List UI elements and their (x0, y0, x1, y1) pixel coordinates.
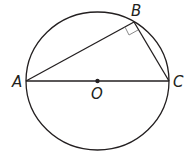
label-a: A (11, 73, 22, 91)
segment-bc (134, 22, 169, 81)
label-b: B (131, 2, 141, 20)
right-angle-marker (125, 27, 138, 35)
geometry-diagram: A B C O (0, 0, 189, 158)
label-c: C (173, 73, 184, 91)
center-point-o (95, 79, 99, 83)
label-o: O (91, 85, 103, 103)
segment-ab (26, 22, 134, 81)
